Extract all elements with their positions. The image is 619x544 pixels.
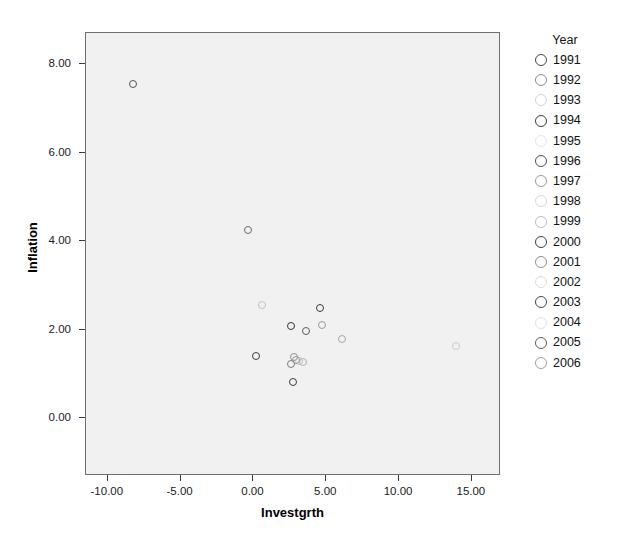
x-axis-tick bbox=[180, 475, 181, 481]
legend-item-1991[interactable]: 1991 bbox=[528, 50, 616, 70]
x-axis-tick bbox=[252, 475, 253, 481]
legend-item-label: 2006 bbox=[553, 357, 581, 370]
legend-item-2000[interactable]: 2000 bbox=[528, 232, 616, 252]
legend-marker-circle-icon bbox=[535, 135, 547, 147]
legend-item-2003[interactable]: 2003 bbox=[528, 292, 616, 312]
legend-item-1999[interactable]: 1999 bbox=[528, 212, 616, 232]
legend-item-list: 1991199219931994199519961997199819992000… bbox=[528, 50, 616, 373]
data-point bbox=[129, 80, 137, 88]
y-axis-tick-label: 2.00 bbox=[19, 323, 71, 335]
legend-title: Year bbox=[534, 33, 596, 47]
legend-marker-circle-icon bbox=[535, 216, 547, 228]
legend-marker-circle-icon bbox=[535, 115, 547, 127]
y-axis-tick bbox=[79, 417, 85, 418]
legend-item-1992[interactable]: 1992 bbox=[528, 70, 616, 90]
y-axis-tick bbox=[79, 152, 85, 153]
legend-item-1998[interactable]: 1998 bbox=[528, 191, 616, 211]
legend-item-1997[interactable]: 1997 bbox=[528, 171, 616, 191]
data-point bbox=[452, 342, 460, 350]
y-axis-tick-label: 8.00 bbox=[19, 57, 71, 69]
legend-item-2001[interactable]: 2001 bbox=[528, 252, 616, 272]
legend-marker-circle-icon bbox=[535, 94, 547, 106]
x-axis-tick-label: 0.00 bbox=[241, 485, 263, 497]
y-axis-tick bbox=[79, 63, 85, 64]
plot-area bbox=[86, 33, 499, 474]
legend-item-label: 1995 bbox=[553, 135, 581, 148]
x-axis-tick bbox=[325, 475, 326, 481]
legend-marker-circle-icon bbox=[535, 155, 547, 167]
data-point bbox=[252, 352, 260, 360]
legend-item-1994[interactable]: 1994 bbox=[528, 111, 616, 131]
data-point bbox=[338, 335, 346, 343]
legend-marker-circle-icon bbox=[535, 256, 547, 268]
data-point bbox=[292, 356, 300, 364]
data-point bbox=[318, 321, 326, 329]
y-axis-tick bbox=[79, 240, 85, 241]
x-axis-tick bbox=[107, 475, 108, 481]
legend-item-1995[interactable]: 1995 bbox=[528, 131, 616, 151]
legend-marker-circle-icon bbox=[535, 337, 547, 349]
data-point bbox=[258, 301, 266, 309]
legend-item-label: 2005 bbox=[553, 336, 581, 349]
data-point bbox=[302, 327, 310, 335]
y-axis-tick bbox=[79, 329, 85, 330]
legend-item-label: 1992 bbox=[553, 74, 581, 87]
y-axis-title: Inflation bbox=[25, 188, 40, 308]
x-axis-tick bbox=[398, 475, 399, 481]
y-axis-tick-label: 0.00 bbox=[19, 411, 71, 423]
legend-marker-circle-icon bbox=[535, 236, 547, 248]
x-axis-tick-label: -5.00 bbox=[167, 485, 193, 497]
data-point bbox=[316, 304, 324, 312]
legend-item-label: 2004 bbox=[553, 316, 581, 329]
legend-marker-circle-icon bbox=[535, 357, 547, 369]
legend-item-label: 1997 bbox=[553, 175, 581, 188]
legend-item-label: 1994 bbox=[553, 114, 581, 127]
x-axis-tick-label: 15.00 bbox=[456, 485, 485, 497]
legend-marker-circle-icon bbox=[535, 54, 547, 66]
legend-item-label: 1999 bbox=[553, 215, 581, 228]
x-axis-tick bbox=[471, 475, 472, 481]
legend-item-2006[interactable]: 2006 bbox=[528, 353, 616, 373]
x-axis-title: Investgrth bbox=[85, 505, 500, 520]
legend-marker-circle-icon bbox=[535, 175, 547, 187]
legend-item-2004[interactable]: 2004 bbox=[528, 312, 616, 332]
x-axis-tick-label: -10.00 bbox=[91, 485, 124, 497]
legend: Year 19911992199319941995199619971998199… bbox=[528, 33, 616, 373]
legend-item-label: 2001 bbox=[553, 256, 581, 269]
legend-item-label: 1991 bbox=[553, 54, 581, 67]
legend-item-2002[interactable]: 2002 bbox=[528, 272, 616, 292]
legend-item-label: 2002 bbox=[553, 276, 581, 289]
legend-item-2005[interactable]: 2005 bbox=[528, 333, 616, 353]
legend-item-label: 2003 bbox=[553, 296, 581, 309]
legend-marker-circle-icon bbox=[535, 317, 547, 329]
legend-item-1996[interactable]: 1996 bbox=[528, 151, 616, 171]
data-point bbox=[289, 378, 297, 386]
legend-marker-circle-icon bbox=[535, 195, 547, 207]
scatter-plot-chart: 0.002.004.006.008.00 -10.00-5.000.005.00… bbox=[0, 0, 619, 544]
y-axis-tick-label: 6.00 bbox=[19, 146, 71, 158]
legend-marker-circle-icon bbox=[535, 276, 547, 288]
legend-item-label: 1996 bbox=[553, 155, 581, 168]
legend-item-1993[interactable]: 1993 bbox=[528, 90, 616, 110]
legend-item-label: 2000 bbox=[553, 236, 581, 249]
data-point bbox=[287, 322, 295, 330]
data-point bbox=[244, 226, 252, 234]
plot-frame bbox=[85, 32, 500, 475]
x-axis-tick-label: 10.00 bbox=[384, 485, 413, 497]
legend-item-label: 1993 bbox=[553, 94, 581, 107]
x-axis-tick-label: 5.00 bbox=[314, 485, 336, 497]
legend-item-label: 1998 bbox=[553, 195, 581, 208]
legend-marker-circle-icon bbox=[535, 296, 547, 308]
legend-marker-circle-icon bbox=[535, 74, 547, 86]
